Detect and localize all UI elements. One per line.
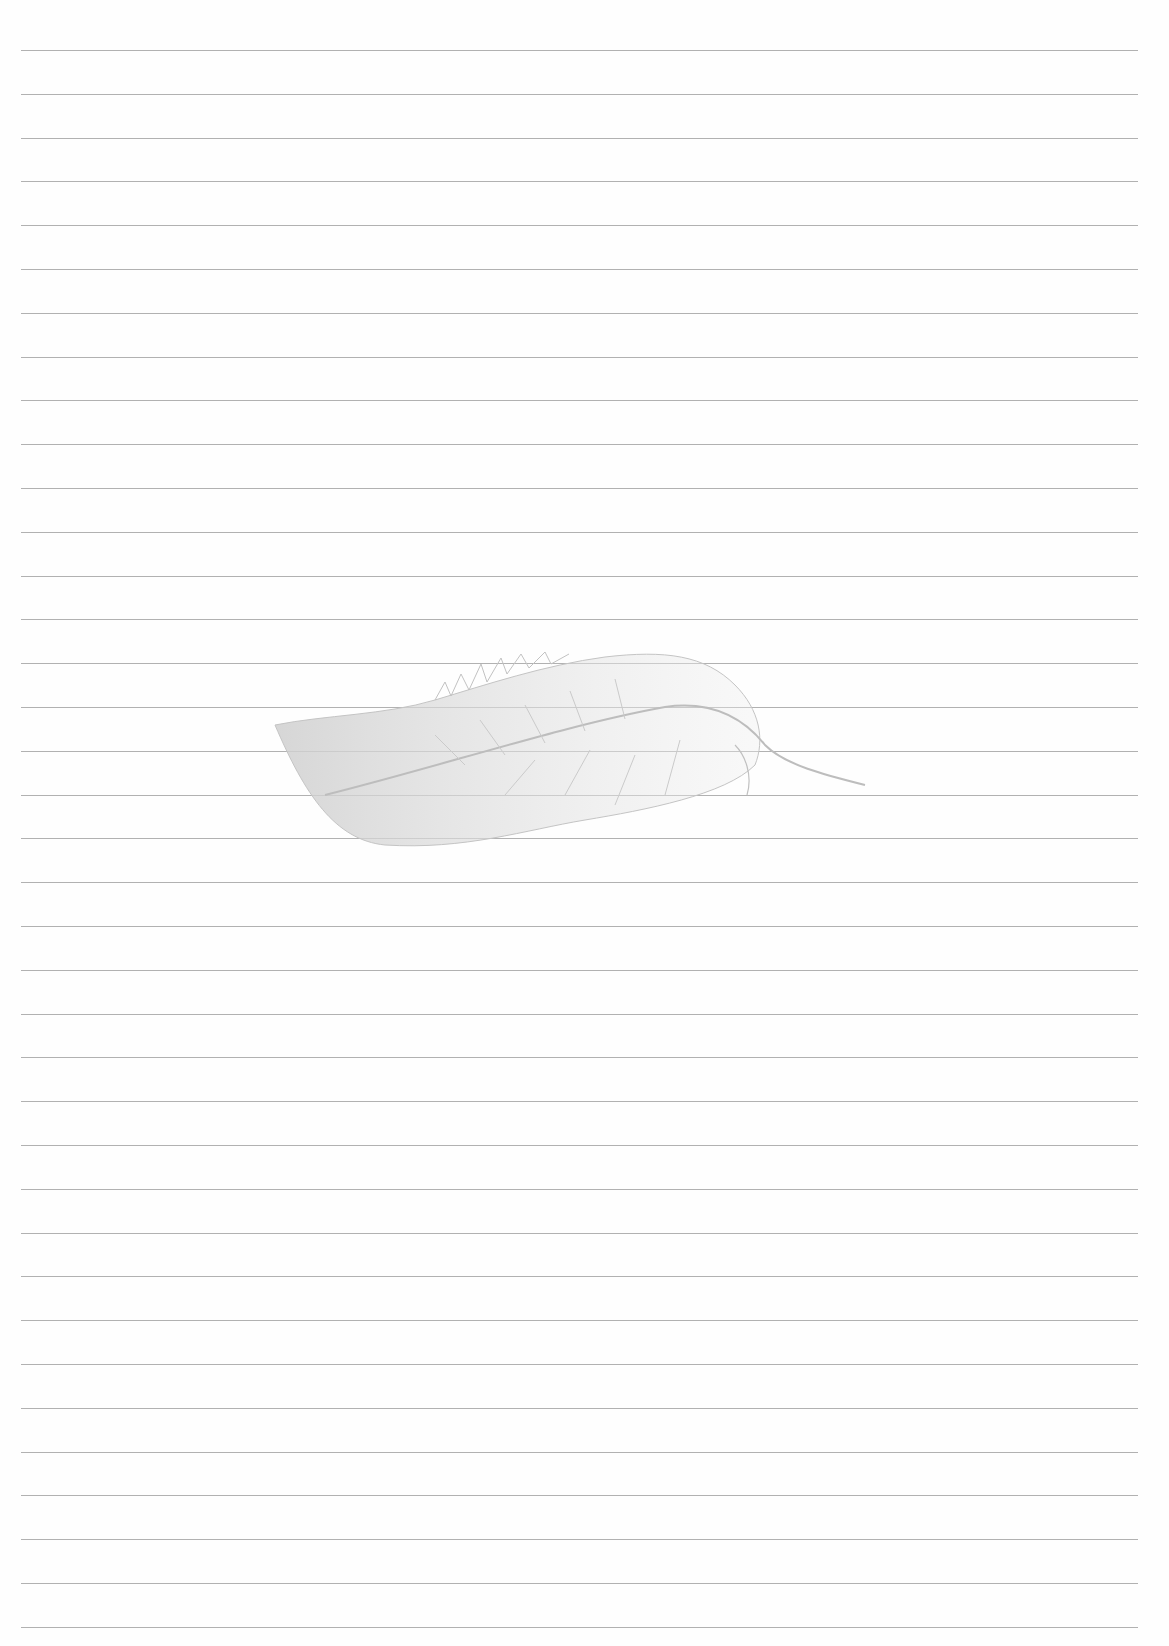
ruled-line: [21, 94, 1138, 95]
ruled-line: [21, 269, 1138, 270]
ruled-line: [21, 444, 1138, 445]
ruled-line: [21, 1189, 1138, 1190]
ruled-line: [21, 1101, 1138, 1102]
ruled-line: [21, 532, 1138, 533]
ruled-line: [21, 225, 1138, 226]
ruled-line: [21, 1276, 1138, 1277]
ruled-line: [21, 970, 1138, 971]
ruled-line: [21, 1452, 1138, 1453]
ruled-line: [21, 181, 1138, 182]
ruled-line: [21, 1495, 1138, 1496]
ruled-line: [21, 50, 1138, 51]
ruled-line: [21, 619, 1138, 620]
ruled-line: [21, 1539, 1138, 1540]
ruled-line: [21, 576, 1138, 577]
ruled-line: [21, 1627, 1138, 1628]
ruled-line: [21, 1583, 1138, 1584]
ruled-line: [21, 1233, 1138, 1234]
ruled-line: [21, 1014, 1138, 1015]
ruled-line: [21, 138, 1138, 139]
ruled-line: [21, 1408, 1138, 1409]
ruled-line: [21, 400, 1138, 401]
lined-paper-page: [0, 0, 1169, 1646]
ruled-line: [21, 926, 1138, 927]
ruled-line: [21, 313, 1138, 314]
ruled-line: [21, 488, 1138, 489]
ruled-line: [21, 1320, 1138, 1321]
ruled-line: [21, 1057, 1138, 1058]
ruled-line: [21, 1145, 1138, 1146]
feather-icon: [265, 645, 875, 870]
ruled-line: [21, 882, 1138, 883]
ruled-line: [21, 357, 1138, 358]
ruled-line: [21, 1364, 1138, 1365]
